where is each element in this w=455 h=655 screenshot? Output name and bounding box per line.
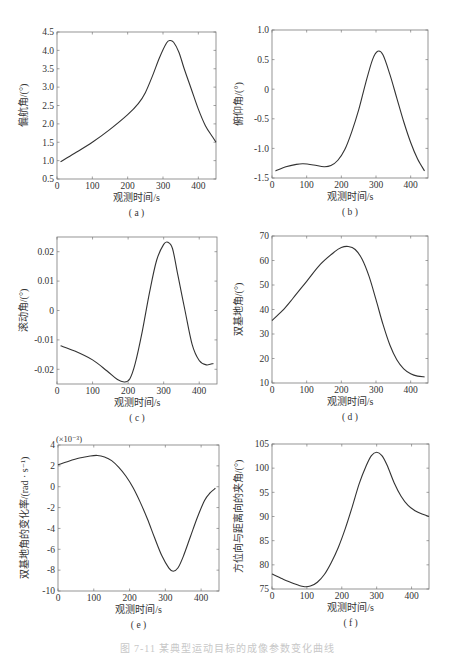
x-tick-label: 300 [158, 593, 173, 603]
y-tick-label: -6 [47, 545, 55, 555]
x-tick-label: 100 [85, 386, 100, 396]
y-tick-label: 50 [260, 280, 270, 290]
chart-panel-f: 01002003004007580859095100105观测时间/s方位向与距… [232, 439, 429, 629]
panel-label: ( f ) [343, 618, 357, 629]
x-tick-label: 400 [404, 591, 419, 601]
y-tick-label: 60 [260, 256, 270, 266]
y-tick-label: 0 [50, 482, 55, 492]
x-tick-label: 0 [56, 593, 61, 603]
y-tick-label: -0.02 [34, 365, 54, 375]
y-tick-label: -8 [47, 565, 55, 575]
plot-frame [272, 444, 429, 589]
y-tick-label: -4 [47, 524, 55, 534]
x-tick-label: 400 [194, 593, 209, 603]
x-tick-label: 100 [300, 591, 315, 601]
x-axis-label: 观测时间/s [115, 603, 162, 615]
figure-caption: 图 7-11 某典型运动目标的成像参数变化曲线 [0, 640, 455, 655]
y-tick-label: 0.5 [257, 55, 269, 65]
x-tick-label: 100 [85, 181, 100, 191]
x-tick-label: 0 [270, 180, 275, 190]
chart-panel-a: 01002003004000.51.01.52.02.53.03.54.04.5… [17, 27, 216, 219]
x-tick-label: 300 [369, 180, 384, 190]
x-axis-label: 观测时间/s [327, 190, 374, 202]
y-tick-label: 0.01 [37, 276, 54, 286]
panel-label: ( d ) [342, 412, 358, 423]
y-tick-label: -2 [47, 503, 55, 513]
y-tick-label: 75 [260, 584, 270, 594]
plot-frame [57, 237, 217, 384]
panel-label: ( a ) [129, 208, 144, 219]
y-axis-label: 双基地角的变化率/(rad · s⁻¹) [18, 457, 31, 580]
y-tick-label: 20 [260, 354, 270, 364]
y-axis-label: 偏航角/(°) [17, 84, 30, 127]
x-tick-label: 400 [404, 385, 419, 395]
x-tick-label: 100 [300, 385, 315, 395]
y-tick-label: 3.0 [42, 82, 54, 92]
y-axis-label: 双基地角/(°) [232, 283, 245, 336]
y-tick-label: 95 [260, 488, 270, 498]
y-tick-label: -1.5 [254, 173, 269, 183]
data-series-line [61, 40, 216, 161]
panel-label: ( b ) [342, 207, 358, 218]
y-tick-label: 1.0 [42, 156, 54, 166]
y-tick-label: 40 [260, 305, 270, 315]
y-multiplier-label: (×10⁻³) [56, 434, 82, 444]
y-tick-label: 2 [50, 461, 55, 471]
y-tick-label: 70 [260, 231, 270, 241]
y-tick-label: 2.0 [42, 119, 54, 129]
y-tick-label: -10 [42, 586, 55, 596]
x-axis-label: 观测时间/s [327, 395, 374, 407]
chart-panel-b: 0100200300400-1.5-1.0-0.500.51.0观测时间/s俯仰… [232, 25, 428, 218]
y-tick-label: 2.5 [42, 101, 54, 111]
y-axis-label: 滚动角/(°) [17, 289, 30, 332]
plot-frame [58, 445, 219, 591]
x-tick-label: 100 [87, 593, 102, 603]
y-tick-label: 4.0 [42, 46, 54, 56]
plot-frame [272, 236, 428, 383]
data-series-line [272, 246, 425, 376]
x-tick-label: 300 [156, 181, 171, 191]
x-tick-label: 200 [334, 180, 349, 190]
data-series-line [58, 455, 215, 571]
y-tick-label: 90 [260, 512, 270, 522]
x-tick-label: 100 [300, 180, 315, 190]
y-tick-label: 1.5 [42, 138, 54, 148]
x-axis-label: 观测时间/s [113, 191, 160, 203]
y-tick-label: 100 [255, 463, 270, 473]
y-axis-label: 俯仰角/(°) [232, 82, 245, 125]
x-tick-label: 200 [122, 593, 137, 603]
y-tick-label: 1.0 [257, 25, 269, 35]
panel-label: ( c ) [129, 413, 144, 424]
data-series-line [61, 242, 214, 382]
x-tick-label: 400 [191, 181, 206, 191]
data-series-line [272, 452, 429, 587]
x-tick-label: 300 [157, 386, 172, 396]
y-tick-label: 10 [260, 378, 270, 388]
chart-panel-d: 010020030040010203040506070观测时间/s双基地角/(°… [232, 231, 428, 423]
y-tick-label: 0.5 [42, 174, 54, 184]
x-tick-label: 0 [55, 386, 60, 396]
plot-frame [272, 30, 428, 178]
x-tick-label: 200 [121, 386, 136, 396]
x-tick-label: 200 [335, 591, 350, 601]
x-tick-label: 0 [270, 385, 275, 395]
chart-panel-e: 0100200300400-10-8-6-4-2024观测时间/s双基地角的变化… [18, 434, 219, 631]
data-series-line [275, 51, 424, 171]
y-tick-label: 0 [49, 306, 54, 316]
x-tick-label: 300 [370, 591, 385, 601]
x-tick-label: 200 [121, 181, 136, 191]
y-tick-label: 4.5 [42, 27, 54, 37]
y-tick-label: -1.0 [254, 144, 269, 154]
x-tick-label: 300 [369, 385, 384, 395]
y-tick-label: 0 [264, 85, 269, 95]
y-tick-label: 4 [50, 440, 55, 450]
y-tick-label: -0.5 [254, 114, 269, 124]
x-tick-label: 0 [55, 181, 60, 191]
x-tick-label: 200 [334, 385, 349, 395]
y-tick-label: 80 [260, 560, 270, 570]
panel-label: ( e ) [131, 620, 146, 631]
x-tick-label: 400 [404, 180, 419, 190]
x-tick-label: 400 [192, 386, 207, 396]
